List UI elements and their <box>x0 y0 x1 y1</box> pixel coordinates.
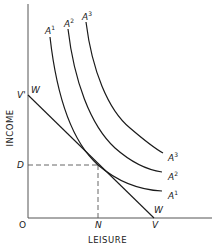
curve-label-a2-right: A2 <box>168 171 178 182</box>
curve-label-a1-top: A1 <box>45 25 55 36</box>
budget-start-line-label: W <box>31 86 40 95</box>
income-level-label: D <box>17 161 24 170</box>
budget-start-axis-label: V' <box>17 91 26 100</box>
leisure-level-label: N <box>95 221 102 230</box>
curve-label-sup: 2 <box>174 170 178 177</box>
curve-label-a2-top: A2 <box>64 18 74 29</box>
diagram-canvas <box>0 0 212 245</box>
curve-label-a3-top: A3 <box>82 11 92 22</box>
curve-label-sup: 3 <box>174 151 178 158</box>
indifference-curve-a3 <box>86 22 163 153</box>
curve-label-sup: 1 <box>51 24 55 31</box>
indifference-curve-a2 <box>68 29 162 172</box>
budget-end-line-label: W <box>154 206 163 215</box>
indifference-curve-diagram: A1 A2 A3 A3 A2 A1 V' W W V D N O INCOME … <box>0 0 212 245</box>
x-axis-title: LEISURE <box>88 235 127 245</box>
y-axis-title: INCOME <box>5 106 15 150</box>
budget-end-axis-label: V <box>152 221 158 230</box>
curve-label-sup: 2 <box>70 17 74 24</box>
curve-label-sup: 1 <box>174 189 178 196</box>
curve-label-a1-right: A1 <box>168 190 178 201</box>
curve-label-sup: 3 <box>88 10 92 17</box>
origin-label: O <box>19 221 26 230</box>
curve-label-a3-right: A3 <box>168 152 178 163</box>
